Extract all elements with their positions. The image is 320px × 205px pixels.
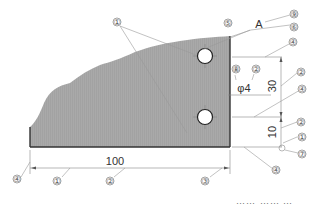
callout-9: ⑨ [290, 10, 298, 19]
svg-text:⑥: ⑥ [290, 23, 297, 32]
svg-text:④: ④ [298, 85, 305, 94]
dimension-hole-offset: 10 [266, 126, 278, 138]
arrow-head [280, 112, 283, 117]
svg-text:④: ④ [272, 166, 279, 175]
svg-text:⑧: ⑧ [232, 65, 239, 74]
svg-text:②: ② [297, 118, 304, 127]
callout-2-right-upper: ② [297, 68, 305, 77]
arrow-head [224, 167, 229, 170]
callout-7: ⑦ [298, 150, 306, 159]
callout-1-bottom: ① [53, 177, 61, 186]
svg-text:①: ① [298, 133, 305, 142]
callout-4-bottom-right: ④ [272, 166, 280, 175]
caption-partial: ⋯⋯ ⋯⋯ ⋯ [236, 199, 293, 205]
svg-text:②: ② [106, 177, 113, 186]
arrow-head [31, 167, 36, 170]
callout-8: ⑧ [232, 65, 240, 74]
svg-text:①: ① [53, 177, 60, 186]
technical-drawing: 100 30 10 φ4 A ① ⑨ ⑤ ⑥ ④ ⑧ ② ② ④ ② ① ⑦ ④… [0, 0, 320, 205]
callout-5: ⑤ [224, 19, 232, 28]
callout-2-diameter: ② [252, 65, 260, 74]
svg-text:①: ① [113, 18, 120, 27]
callout-6: ⑥ [290, 23, 298, 32]
callout-4-top: ④ [289, 38, 297, 47]
svg-text:⑤: ⑤ [224, 19, 231, 28]
svg-text:⑨: ⑨ [290, 10, 297, 19]
callout-1-top: ① [113, 18, 121, 27]
dimension-hole-spacing: 30 [266, 80, 278, 92]
drawing-canvas: 100 30 10 φ4 A ① ⑨ ⑤ ⑥ ④ ⑧ ② ② ④ ② ① ⑦ ④… [0, 0, 320, 205]
callout-1-right: ① [298, 133, 306, 142]
arrow-head [280, 117, 283, 122]
arrow-head [280, 57, 283, 62]
svg-text:④: ④ [13, 175, 20, 184]
dimension-hole-diameter: φ4 [237, 82, 250, 94]
view-label: A [255, 18, 263, 30]
callout-2-bottom: ② [106, 177, 114, 186]
origin-marker [279, 145, 285, 151]
callout-3: ③ [201, 177, 209, 186]
callout-4-bottom-left: ④ [13, 175, 21, 184]
dimension-overall-length: 100 [106, 155, 124, 167]
svg-text:⑦: ⑦ [298, 150, 305, 159]
callout-2-right-lower: ② [297, 118, 305, 127]
svg-text:④: ④ [289, 38, 296, 47]
svg-text:②: ② [252, 65, 259, 74]
svg-text:③: ③ [201, 177, 208, 186]
svg-text:②: ② [297, 68, 304, 77]
callout-4-right-mid: ④ [298, 85, 306, 94]
